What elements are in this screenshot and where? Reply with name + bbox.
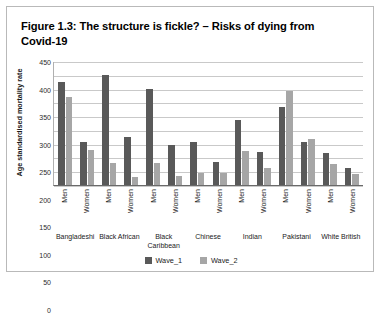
x-axis-tick-label: Men	[326, 189, 333, 203]
y-axis-tick-label: 150	[39, 224, 51, 231]
plot-area: 050100150200250300350400450	[53, 62, 363, 186]
x-axis-tick-label: Women	[83, 189, 90, 213]
bar[interactable]	[264, 168, 271, 185]
bar-subgroup	[186, 62, 208, 185]
bar-group	[54, 62, 98, 185]
bar[interactable]	[154, 163, 161, 185]
bar[interactable]	[308, 139, 315, 185]
legend-swatch-icon	[145, 257, 152, 264]
legend-item[interactable]: Wave_2	[200, 256, 238, 265]
bar[interactable]	[213, 162, 220, 185]
y-axis-tick-label: 350	[39, 114, 51, 121]
x-axis-tick-label: Men	[282, 189, 289, 203]
bar[interactable]	[301, 142, 308, 185]
bar[interactable]	[146, 89, 153, 185]
bar[interactable]	[102, 75, 109, 185]
bar[interactable]	[190, 142, 197, 185]
bar[interactable]	[330, 164, 337, 185]
bar-subgroup	[231, 62, 253, 185]
bar-subgroup	[120, 62, 142, 185]
x-axis-tick-label: Women	[171, 189, 178, 213]
category-label: Black Caribbean	[142, 233, 186, 257]
x-axis-tick-label: Women	[216, 189, 223, 213]
tick-group: MenWomen	[53, 187, 97, 235]
category-label: Black African	[97, 233, 141, 257]
category-label: White British	[319, 233, 363, 257]
x-axis-tick: Men	[186, 187, 208, 235]
bar-subgroup	[297, 62, 319, 185]
bar[interactable]	[88, 150, 95, 185]
bar-group	[275, 62, 319, 185]
y-axis-title: Age standardised mortality rate	[13, 57, 27, 187]
bar[interactable]	[352, 174, 359, 185]
bar-subgroup	[319, 62, 341, 185]
tick-group: MenWomen	[142, 187, 186, 235]
x-axis-tick: Women	[164, 187, 186, 235]
bar[interactable]	[132, 177, 139, 185]
bar[interactable]	[198, 173, 205, 185]
bar[interactable]	[286, 91, 293, 185]
bar[interactable]	[345, 168, 352, 185]
x-axis-tick-label: Women	[304, 189, 311, 213]
legend-label: Wave_1	[156, 256, 183, 265]
x-axis-tick: Men	[230, 187, 252, 235]
x-axis-tick-label: Men	[193, 189, 200, 203]
bar-subgroup	[275, 62, 297, 185]
x-axis-tick: Women	[252, 187, 274, 235]
category-label: Indian	[230, 233, 274, 257]
bar[interactable]	[279, 107, 286, 185]
bar[interactable]	[66, 97, 73, 185]
tick-group: MenWomen	[97, 187, 141, 235]
y-axis-tick-label: 200	[39, 196, 51, 203]
legend-item[interactable]: Wave_1	[145, 256, 183, 265]
bar[interactable]	[168, 145, 175, 186]
bar[interactable]	[242, 151, 249, 185]
y-axis-tick-label: 50	[43, 279, 51, 286]
legend-label: Wave_2	[211, 256, 238, 265]
bar-subgroup	[253, 62, 275, 185]
bar-subgroup	[98, 62, 120, 185]
tick-group: MenWomen	[186, 187, 230, 235]
x-axis-category-labels: BangladeshiBlack AfricanBlack CaribbeanC…	[53, 233, 363, 257]
bar-chart: Age standardised mortality rate 05010015…	[15, 57, 367, 262]
y-axis-tick-label: 300	[39, 141, 51, 148]
bar-subgroup	[76, 62, 98, 185]
bar-group	[98, 62, 142, 185]
bar-group	[319, 62, 363, 185]
x-axis-tick: Men	[142, 187, 164, 235]
y-axis-title-text: Age standardised mortality rate	[16, 68, 25, 176]
category-label: Pakistani	[274, 233, 318, 257]
bar-group	[186, 62, 230, 185]
bar[interactable]	[110, 163, 117, 185]
x-axis-tick-label: Men	[149, 189, 156, 203]
bar[interactable]	[257, 152, 264, 185]
bar[interactable]	[58, 82, 65, 185]
bar[interactable]	[124, 137, 131, 185]
bar-group	[142, 62, 186, 185]
y-axis-tick-label: 400	[39, 86, 51, 93]
x-axis-tick: Women	[75, 187, 97, 235]
figure-title: Figure 1.3: The structure is fickle? – R…	[21, 19, 351, 49]
x-axis-tick-label: Women	[348, 189, 355, 213]
y-axis-tick-label: 0	[47, 307, 51, 314]
x-axis-tick: Women	[208, 187, 230, 235]
x-axis-tick-label: Women	[260, 189, 267, 213]
bar-subgroup	[54, 62, 76, 185]
x-axis-tick-label: Men	[61, 189, 68, 203]
bar[interactable]	[235, 120, 242, 185]
bar-subgroup	[341, 62, 363, 185]
bar[interactable]	[80, 142, 87, 185]
bar[interactable]	[176, 176, 183, 185]
figure-panel: Figure 1.3: The structure is fickle? – R…	[6, 6, 374, 272]
bar[interactable]	[323, 153, 330, 186]
x-axis-tick: Men	[97, 187, 119, 235]
x-axis-tick-label: Men	[238, 189, 245, 203]
bar[interactable]	[220, 173, 227, 185]
bar-group	[231, 62, 275, 185]
tick-group: MenWomen	[319, 187, 363, 235]
x-axis-tick: Women	[297, 187, 319, 235]
x-axis-tick: Men	[53, 187, 75, 235]
tick-group: MenWomen	[274, 187, 318, 235]
bar-subgroup	[164, 62, 186, 185]
bar-series-container	[54, 62, 363, 185]
